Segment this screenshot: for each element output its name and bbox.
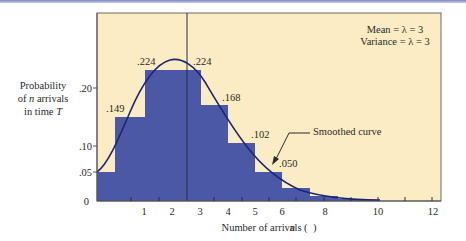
y-axis-label-line: in time T xyxy=(0,105,86,118)
x-tick-label: 6 xyxy=(279,206,284,217)
x-tick-label: 10 xyxy=(373,206,384,217)
variance-text: Variance = λ = 3 xyxy=(340,36,450,48)
x-axis-label: Number of arrivals (n) xyxy=(0,222,466,233)
y-tick-label: .10 xyxy=(79,141,92,152)
y-ticks xyxy=(93,88,97,172)
x-tick-label: 3 xyxy=(197,206,202,217)
smoothed-curve-label: Smoothed curve xyxy=(313,126,382,137)
x-tick-label: 5 xyxy=(252,206,257,217)
x-tick-label: 1 xyxy=(141,206,146,217)
bar-value-label: .050 xyxy=(279,158,297,169)
mean-variance-annotation: Mean = λ = 3 Variance = λ = 3 xyxy=(340,24,450,48)
bar-value-label: .224 xyxy=(137,56,156,67)
mean-text: Mean = λ = 3 xyxy=(340,24,450,36)
y-tick-label: .05 xyxy=(79,167,92,178)
bar-value-label: .102 xyxy=(251,129,269,140)
x-tick-label: 12 xyxy=(428,206,439,217)
y-axis-label: Probability of n arrivals in time T xyxy=(0,79,86,118)
y-axis-label-line: Probability xyxy=(0,79,86,92)
x-tick-label: 4 xyxy=(225,206,231,217)
bar-value-label: .168 xyxy=(222,92,240,103)
y-tick-label: 0 xyxy=(84,196,89,207)
x-tick-label: 8 xyxy=(322,206,327,217)
x-tick-label: 2 xyxy=(169,206,174,217)
bar-value-label: .224 xyxy=(193,56,212,67)
bar-value-label: .149 xyxy=(106,103,124,114)
y-axis-label-line: of n arrivals xyxy=(0,92,86,105)
